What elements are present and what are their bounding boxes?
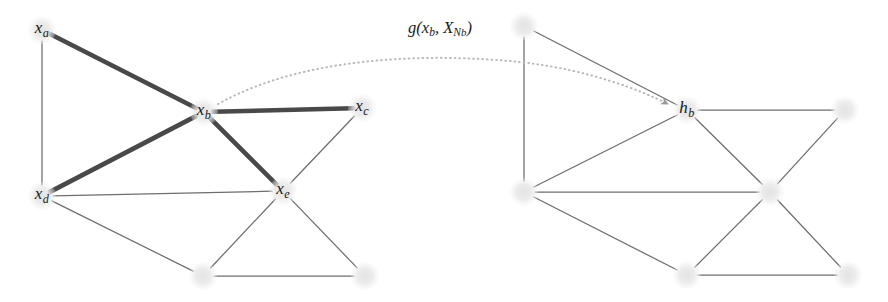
- node-label-xd: xd: [35, 184, 49, 207]
- edge: [777, 118, 837, 184]
- node-label-xe: xe: [276, 179, 290, 202]
- right-graph-nodes: [510, 12, 862, 289]
- edge: [534, 197, 677, 270]
- node-label-base: x: [197, 100, 205, 119]
- edge: [291, 116, 355, 183]
- node-label-subscript: d: [43, 191, 49, 205]
- formula-close-paren: ): [466, 18, 472, 37]
- edge: [53, 191, 272, 196]
- edge: [778, 200, 841, 267]
- node-label-base: x: [35, 184, 43, 203]
- edge: [52, 201, 193, 271]
- left-graph-edges: [42, 34, 357, 276]
- edge-highlighted: [210, 118, 276, 184]
- edge-highlighted: [50, 34, 196, 108]
- node-label-xc: xc: [355, 96, 369, 119]
- graph-node: [673, 261, 701, 289]
- aggregation-function-label: g(xb, XNb): [408, 18, 472, 39]
- graph-svg: [0, 0, 888, 302]
- graph-node: [510, 12, 538, 40]
- right-graph-edges: [524, 31, 840, 275]
- edge: [211, 199, 276, 268]
- node-label-hb: hb: [679, 98, 694, 121]
- node-label-base: h: [679, 98, 688, 117]
- graph-node: [831, 96, 859, 124]
- graph-node: [510, 178, 538, 206]
- node-label-base: x: [355, 96, 363, 115]
- node-label-subscript: b: [205, 107, 211, 121]
- node-label-base: x: [35, 18, 43, 37]
- node-label-subscript: a: [43, 25, 49, 39]
- formula-cal-N: N: [453, 26, 461, 38]
- node-label-subscript: e: [284, 186, 290, 200]
- graph-node: [756, 178, 784, 206]
- graph-node: [834, 261, 862, 289]
- graph-node: [351, 262, 379, 290]
- node-label-xa: xa: [35, 18, 49, 41]
- edge: [291, 199, 358, 268]
- formula-X: X: [443, 18, 453, 37]
- edge-highlighted: [50, 116, 196, 192]
- node-label-base: x: [276, 179, 284, 198]
- node-label-subscript: b: [688, 105, 694, 119]
- node-label-subscript: c: [363, 103, 369, 117]
- edge: [695, 118, 762, 185]
- edge-highlighted: [213, 108, 353, 112]
- left-graph-nodes: [28, 16, 379, 290]
- node-label-xb: xb: [197, 100, 211, 123]
- edge: [534, 115, 677, 187]
- formula-x: x: [422, 18, 429, 37]
- figure-canvas: xaxbxcxdxehb g(xb, XNb): [0, 0, 888, 302]
- formula-comma: ,: [435, 18, 443, 37]
- formula-g: g: [408, 18, 416, 37]
- graph-node: [189, 262, 217, 290]
- edge: [695, 200, 762, 267]
